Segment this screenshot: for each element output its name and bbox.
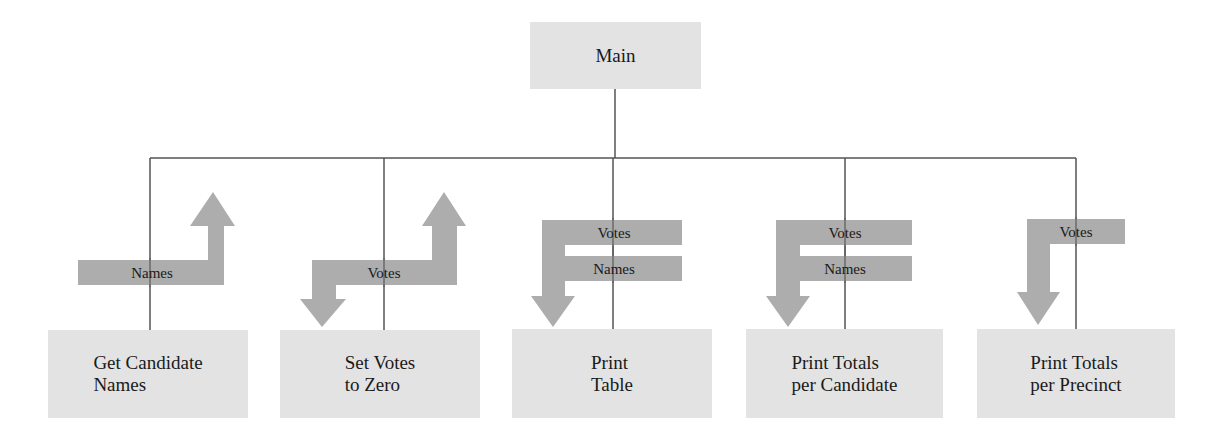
flow-label-votes: Votes <box>828 225 861 241</box>
flow-arrow-in-out-icon <box>300 192 466 327</box>
module-print-totals-per-precinct: Print Totals per Precinct <box>977 329 1175 418</box>
module-label: Get Candidate Names <box>93 352 202 396</box>
flow-label-votes: Votes <box>367 265 400 281</box>
flow-label-names: Names <box>131 265 173 281</box>
flow-label-votes: Votes <box>597 225 630 241</box>
module-label: Print Totals per Precinct <box>1030 352 1121 396</box>
module-label: Set Votes to Zero <box>345 352 416 396</box>
module-get-candidate-names: Get Candidate Names <box>48 330 248 418</box>
module-set-votes-to-zero: Set Votes to Zero <box>280 330 480 418</box>
module-print-totals-per-candidate: Print Totals per Candidate <box>746 329 943 418</box>
module-label: Print Table <box>591 352 633 396</box>
module-label: Print Totals per Candidate <box>791 352 897 396</box>
flow-label-names: Names <box>824 261 866 277</box>
module-print-table: Print Table <box>512 329 712 418</box>
structure-chart: Names Votes Votes Names Votes Names Vote… <box>0 0 1229 434</box>
flow-label-names: Names <box>593 261 635 277</box>
flow-label-votes: Votes <box>1059 224 1092 240</box>
module-main: Main <box>530 22 701 89</box>
tree-lines <box>150 89 1076 330</box>
module-label: Main <box>595 45 635 67</box>
